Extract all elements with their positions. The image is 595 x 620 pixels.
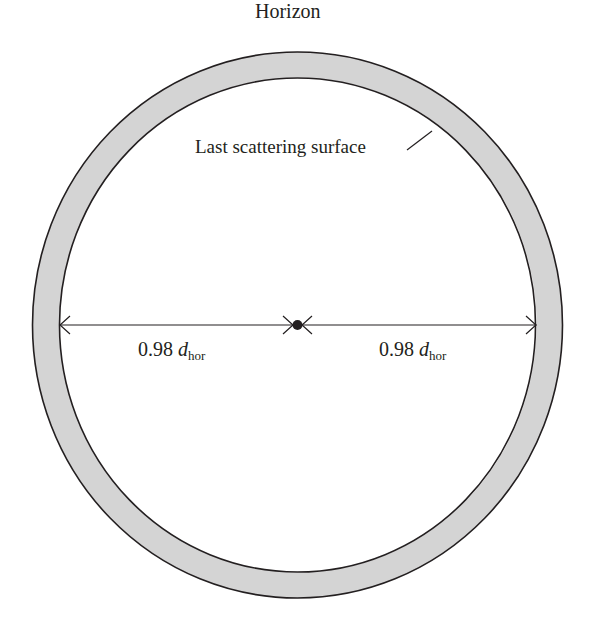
right-distance-symbol: d — [419, 338, 429, 360]
horizon-diagram — [0, 0, 595, 620]
left-distance-coefficient: 0.98 — [138, 338, 173, 360]
horizon-label: Horizon — [255, 0, 321, 23]
observer-dot — [293, 320, 303, 330]
left-distance-symbol: d — [178, 338, 188, 360]
left-distance-subscript: hor — [188, 348, 205, 363]
right-distance-subscript: hor — [429, 348, 446, 363]
right-distance-label: 0.98 dhor — [379, 338, 446, 364]
surface-leader-line — [407, 131, 432, 150]
right-distance-coefficient: 0.98 — [379, 338, 414, 360]
left-distance-label: 0.98 dhor — [138, 338, 205, 364]
last-scattering-surface-label: Last scattering surface — [195, 136, 366, 158]
